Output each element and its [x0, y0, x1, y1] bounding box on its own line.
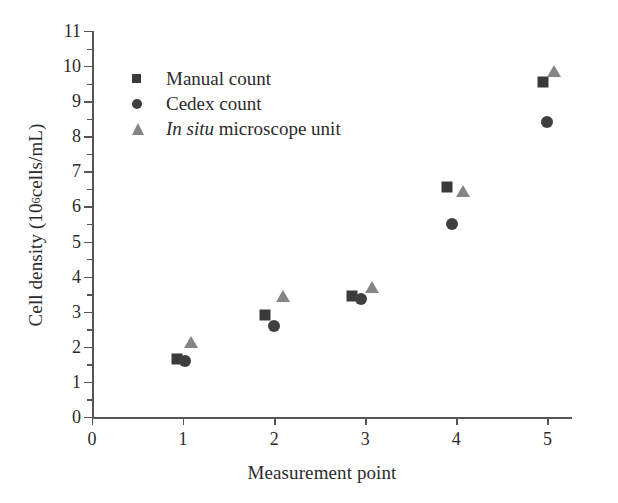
- y-tick-major: [84, 136, 92, 137]
- x-tick: [365, 417, 366, 425]
- data-point-triangle: [456, 185, 470, 197]
- data-point-circle: [268, 320, 280, 332]
- legend-label-italic-part: In situ: [166, 118, 214, 139]
- y-tick-major: [84, 417, 92, 418]
- x-tick-label: 5: [543, 429, 552, 450]
- y-tick-minor: [87, 119, 92, 120]
- scatter-chart-figure: Cell density (106 cells/mL) Measurement …: [0, 0, 618, 503]
- chart-legend: Manual countCedex countIn situ microscop…: [132, 66, 341, 141]
- y-tick-minor: [87, 364, 92, 365]
- y-tick-major: [84, 347, 92, 348]
- y-tick-major: [84, 66, 92, 67]
- y-tick-major: [84, 382, 92, 383]
- y-tick-major: [84, 206, 92, 207]
- y-tick-label: 4: [72, 266, 81, 287]
- y-tick-label: 6: [72, 196, 81, 217]
- x-tick-label: 3: [361, 429, 370, 450]
- y-axis-line: [92, 31, 94, 417]
- data-point-triangle: [184, 336, 198, 348]
- x-tick-label: 1: [179, 429, 188, 450]
- y-tick-minor: [87, 84, 92, 85]
- y-tick-label: 5: [72, 231, 81, 252]
- y-tick-label: 9: [72, 91, 81, 112]
- y-tick-label: 10: [63, 56, 81, 77]
- legend-item-label: Manual count: [166, 66, 271, 91]
- legend-item: In situ microscope unit: [132, 116, 341, 141]
- y-tick-major: [84, 31, 92, 32]
- y-axis-title-tail: cells/mL): [25, 124, 47, 198]
- y-tick-label: 3: [72, 301, 81, 322]
- y-tick-label: 7: [72, 161, 81, 182]
- data-point-circle: [355, 293, 367, 305]
- x-tick-label: 4: [452, 429, 461, 450]
- data-point-circle: [446, 218, 458, 230]
- x-axis-title: Measurement point: [92, 462, 552, 484]
- y-tick-label: 8: [72, 126, 81, 147]
- y-tick-major: [84, 242, 92, 243]
- y-tick-major: [84, 277, 92, 278]
- x-tick: [547, 417, 548, 425]
- y-tick-label: 0: [72, 407, 81, 428]
- y-tick-minor: [87, 154, 92, 155]
- legend-marker-triangle-icon: [132, 123, 154, 135]
- legend-item: Cedex count: [132, 91, 341, 116]
- legend-item-label: In situ microscope unit: [166, 116, 341, 141]
- y-tick-major: [84, 312, 92, 313]
- data-point-circle: [179, 355, 191, 367]
- data-point-triangle: [276, 290, 290, 302]
- data-point-square: [537, 76, 548, 87]
- legend-item-label: Cedex count: [166, 91, 262, 116]
- y-tick-minor: [87, 224, 92, 225]
- x-tick: [92, 417, 93, 425]
- y-tick-label: 2: [72, 336, 81, 357]
- data-point-circle: [541, 116, 553, 128]
- y-tick-minor: [87, 329, 92, 330]
- y-tick-major: [84, 101, 92, 102]
- y-axis-title: Cell density (106 cells/mL): [14, 10, 58, 440]
- y-tick-label: 11: [64, 21, 81, 42]
- data-point-triangle: [547, 65, 561, 77]
- legend-item: Manual count: [132, 66, 341, 91]
- x-tick: [274, 417, 275, 425]
- x-tick: [456, 417, 457, 425]
- x-tick-label: 0: [88, 429, 97, 450]
- data-point-square: [260, 310, 271, 321]
- legend-marker-square-icon: [132, 74, 154, 83]
- y-tick-minor: [87, 294, 92, 295]
- y-tick-minor: [87, 189, 92, 190]
- x-tick: [183, 417, 184, 425]
- y-tick-minor: [87, 259, 92, 260]
- y-tick-major: [84, 171, 92, 172]
- x-axis-line: [92, 417, 572, 419]
- data-point-triangle: [365, 281, 379, 293]
- data-point-square: [442, 182, 453, 193]
- y-tick-label: 1: [72, 371, 81, 392]
- x-tick-label: 2: [270, 429, 279, 450]
- y-axis-title-main: Cell density (10: [25, 203, 47, 326]
- y-tick-minor: [87, 399, 92, 400]
- y-tick-minor: [87, 49, 92, 50]
- legend-marker-circle-icon: [132, 99, 154, 109]
